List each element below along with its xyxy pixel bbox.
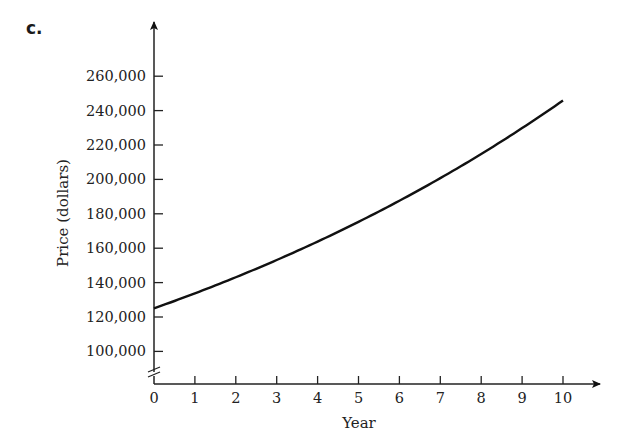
x-tick-label: 6 [395, 390, 404, 406]
x-tick-label: 2 [231, 390, 240, 406]
x-tick-label: 10 [554, 390, 572, 406]
y-tick-label: 180,000 [86, 206, 146, 222]
y-tick-label: 160,000 [86, 240, 146, 256]
x-ticks: 012345678910 [149, 376, 572, 406]
x-tick-label: 7 [436, 390, 445, 406]
x-tick-label: 4 [313, 390, 322, 406]
y-ticks: 100,000120,000140,000160,000180,000200,0… [86, 68, 163, 359]
price-chart: 100,000120,000140,000160,000180,000200,0… [0, 0, 617, 448]
y-tick-label: 140,000 [86, 275, 146, 291]
axes [148, 22, 600, 384]
y-tick-label: 240,000 [86, 103, 146, 119]
x-tick-label: 1 [190, 390, 199, 406]
y-tick-label: 260,000 [86, 68, 146, 84]
x-tick-label: 5 [354, 390, 363, 406]
x-axis-title: Year [341, 414, 376, 432]
y-tick-label: 220,000 [86, 137, 146, 153]
y-tick-label: 200,000 [86, 171, 146, 187]
y-tick-label: 120,000 [86, 309, 146, 325]
x-tick-label: 8 [477, 390, 486, 406]
x-tick-label: 9 [517, 390, 526, 406]
x-tick-label: 3 [272, 390, 281, 406]
y-axis-title: Price (dollars) [54, 159, 72, 267]
price-curve [154, 100, 563, 308]
y-tick-label: 100,000 [86, 343, 146, 359]
x-tick-label: 0 [149, 390, 158, 406]
